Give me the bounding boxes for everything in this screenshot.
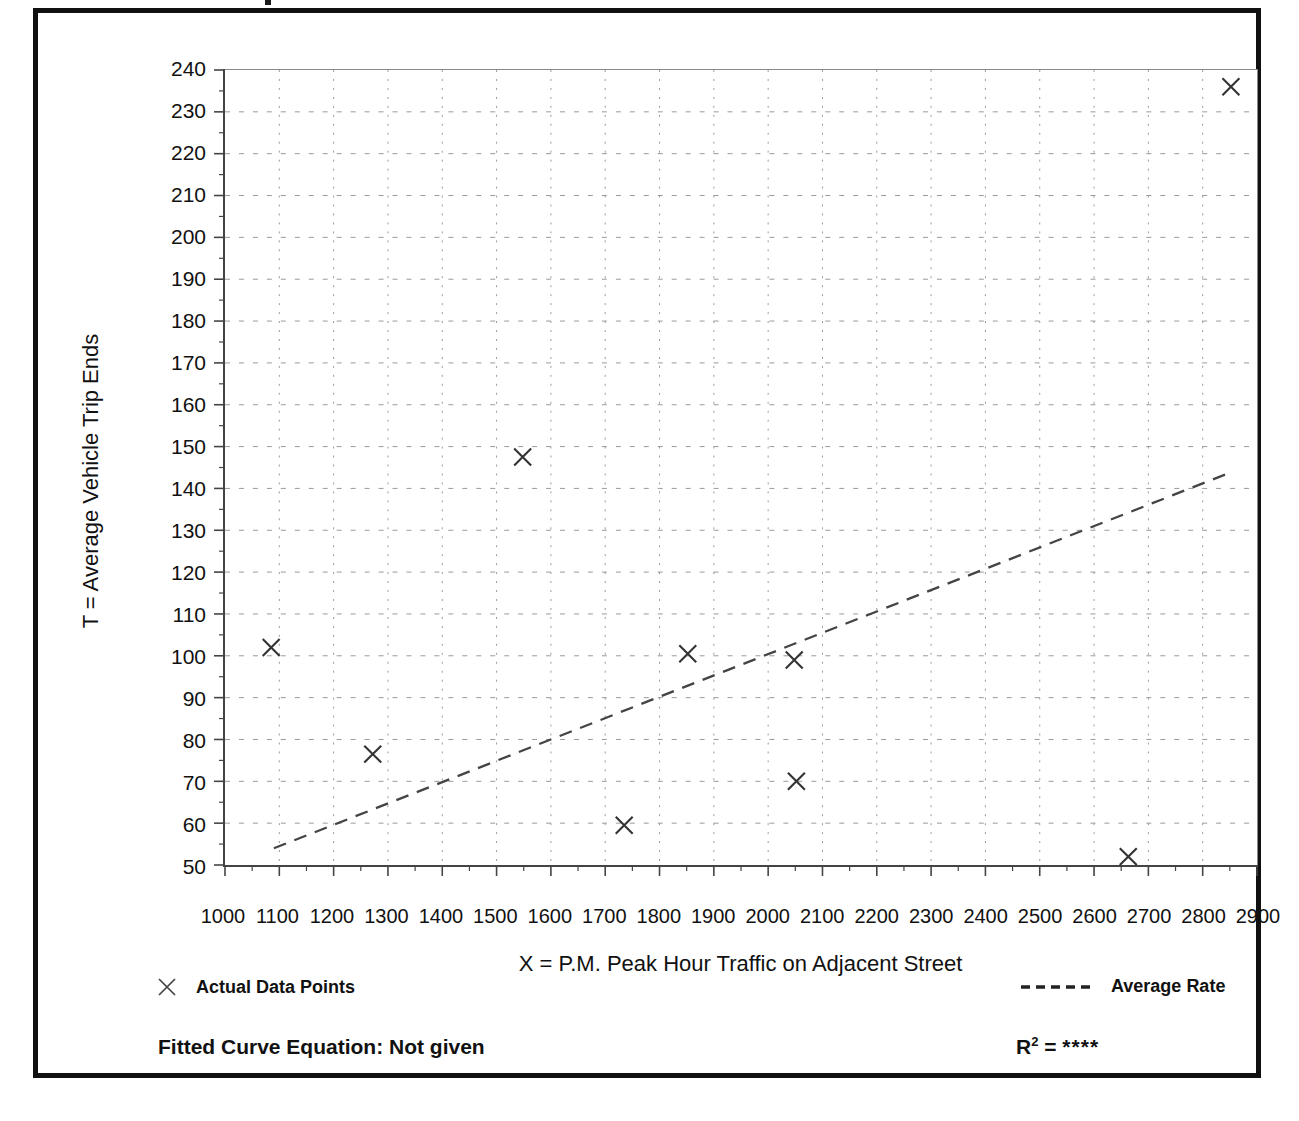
data-point-marker xyxy=(1222,78,1239,95)
scan-artifact-speck xyxy=(265,0,271,5)
x-axis-tick-label: 1800 xyxy=(637,905,682,928)
y-axis-tick-label: 180 xyxy=(171,309,206,333)
y-axis-tick-label: 140 xyxy=(171,477,206,501)
y-axis-title: T = Average Vehicle Trip Ends xyxy=(78,221,104,741)
x-axis-tick-label: 2800 xyxy=(1181,905,1226,928)
y-axis-tick-label: 110 xyxy=(173,603,206,627)
y-axis-tick-labels: 5060708090100110120130140150160170180190… xyxy=(138,69,206,867)
r-squared-value: **** xyxy=(1062,1035,1099,1058)
data-point-marker xyxy=(364,746,381,763)
data-point-marker xyxy=(679,645,696,662)
x-axis-tick-label: 1400 xyxy=(419,905,464,928)
plot-canvas xyxy=(225,70,1257,865)
x-axis-tick-label: 2900 xyxy=(1236,905,1281,928)
x-axis-tick-label: 2500 xyxy=(1018,905,1063,928)
y-axis-tick-label: 190 xyxy=(171,267,206,291)
legend-label-average-rate: Average Rate xyxy=(1111,976,1225,997)
y-axis-tick-label: 100 xyxy=(171,645,206,669)
y-axis-tick-label: 70 xyxy=(183,771,206,795)
y-axis-tick-label: 80 xyxy=(183,729,206,753)
chart-page: 5060708090100110120130140150160170180190… xyxy=(0,0,1299,1121)
x-marker-icon xyxy=(156,976,178,998)
legend-entry-actual-data-points: Actual Data Points xyxy=(156,976,355,998)
data-point-marker xyxy=(788,773,805,790)
plot-area xyxy=(223,69,1258,867)
y-axis-tick-label: 230 xyxy=(171,99,206,123)
x-axis-tick-label: 2600 xyxy=(1072,905,1117,928)
data-point-marker xyxy=(616,817,633,834)
x-axis-tick-label: 2200 xyxy=(854,905,899,928)
legend-entry-average-rate: Average Rate xyxy=(1021,976,1225,997)
y-axis-tick-label: 240 xyxy=(171,57,206,81)
x-axis-tick-label: 2000 xyxy=(745,905,790,928)
x-axis-tick-label: 1900 xyxy=(691,905,736,928)
fitted-curve-equation: Fitted Curve Equation: Not given xyxy=(158,1035,485,1059)
y-axis-tick-label: 220 xyxy=(171,141,206,165)
dashed-line-icon xyxy=(1021,985,1095,989)
data-point-marker xyxy=(263,639,280,656)
y-axis-tick-label: 50 xyxy=(183,855,206,879)
x-axis-tick-label: 2100 xyxy=(800,905,845,928)
x-axis-tick-label: 1600 xyxy=(528,905,573,928)
x-axis-tick-label: 1100 xyxy=(256,905,299,928)
y-axis-tick-label: 210 xyxy=(171,183,206,207)
y-axis-tick-label: 160 xyxy=(171,393,206,417)
x-axis-tick-label: 2700 xyxy=(1127,905,1172,928)
legend-label-actual-data-points: Actual Data Points xyxy=(196,977,355,998)
y-axis-tick-label: 120 xyxy=(171,561,206,585)
data-point-marker xyxy=(786,652,803,669)
y-axis-tick-label: 130 xyxy=(171,519,206,543)
y-axis-tick-label: 200 xyxy=(171,225,206,249)
y-axis-tick-label: 90 xyxy=(183,687,206,711)
r-squared-annotation: R2 = **** xyxy=(1016,1035,1099,1059)
r-squared-prefix: R xyxy=(1016,1035,1031,1058)
x-axis-tick-label: 1500 xyxy=(473,905,518,928)
x-axis-tick-labels: 1000110012001300140015001600170018001900… xyxy=(223,905,1258,933)
x-axis-tick-label: 1200 xyxy=(310,905,355,928)
x-axis-tick-label: 2300 xyxy=(909,905,954,928)
x-axis-tick-label: 1300 xyxy=(364,905,409,928)
x-axis-tick-label: 1000 xyxy=(201,905,246,928)
x-axis-title: X = P.M. Peak Hour Traffic on Adjacent S… xyxy=(223,951,1258,977)
y-axis-tick-label: 60 xyxy=(183,813,206,837)
figure-frame: 5060708090100110120130140150160170180190… xyxy=(33,8,1261,1078)
y-axis-tick-label: 150 xyxy=(171,435,206,459)
r-squared-equals: = xyxy=(1038,1035,1062,1058)
data-point-marker xyxy=(1120,848,1137,865)
x-axis-tick-label: 2400 xyxy=(963,905,1008,928)
y-axis-tick-label: 170 xyxy=(171,351,206,375)
data-point-marker xyxy=(514,449,531,466)
x-axis-tick-label: 1700 xyxy=(582,905,627,928)
